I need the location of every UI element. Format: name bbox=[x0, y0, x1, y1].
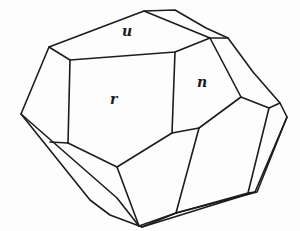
face-label-r: r bbox=[110, 92, 117, 106]
crystal-diagram: u r n bbox=[0, 0, 300, 231]
face-label-n: n bbox=[197, 75, 207, 89]
crystal-outline bbox=[0, 0, 300, 231]
face-label-u: u bbox=[122, 24, 132, 38]
